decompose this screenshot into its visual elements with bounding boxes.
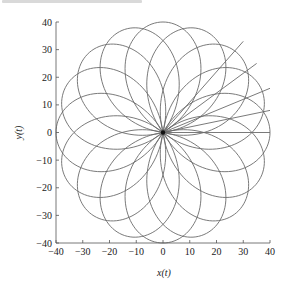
petal-curve [62, 116, 163, 198]
petal-curve [77, 130, 165, 221]
petal-curve [160, 44, 248, 135]
x-tick-label: 20 [212, 246, 222, 257]
x-tick-label: 40 [265, 246, 275, 257]
x-tick-label: 0 [161, 246, 166, 257]
x-tick-label: −10 [128, 246, 144, 257]
petal-curve [100, 133, 179, 238]
y-tick-label: 30 [42, 44, 52, 55]
y-tick-label: 40 [42, 17, 52, 28]
x-axis-title: x(t) [156, 267, 172, 279]
y-tick-label: −30 [36, 210, 52, 221]
chart: −40−30−20−10010203040 403020100−10−20−30… [0, 0, 289, 290]
y-tick-label: −20 [36, 182, 52, 193]
x-tick-label: 10 [185, 246, 195, 257]
petal-curve [125, 133, 201, 244]
y-tick-label: 20 [42, 72, 52, 83]
origin-point [161, 130, 165, 134]
y-tick-label: 0 [47, 127, 52, 138]
x-tick-label: −20 [102, 246, 118, 257]
y-axis-title: y(t) [13, 125, 25, 141]
x-tick-label: −30 [75, 246, 91, 257]
petal-curve [100, 28, 179, 133]
petal-curve [77, 44, 165, 135]
y-tick-label: −10 [36, 155, 52, 166]
petal-curve [56, 93, 163, 171]
y-tick-label: 10 [42, 99, 52, 110]
petal-curve [147, 133, 226, 238]
x-tick-label: 30 [238, 246, 248, 257]
radial-ray [163, 88, 270, 132]
petal-curve [147, 28, 226, 133]
petal-curve [160, 130, 248, 221]
petal-curve [163, 116, 264, 198]
petal-curve [62, 68, 163, 150]
petal-curve [125, 22, 201, 133]
radial-ray [163, 63, 257, 132]
curves-group [56, 22, 270, 243]
petal-curve [163, 68, 264, 150]
y-tick-label: −40 [36, 238, 52, 249]
